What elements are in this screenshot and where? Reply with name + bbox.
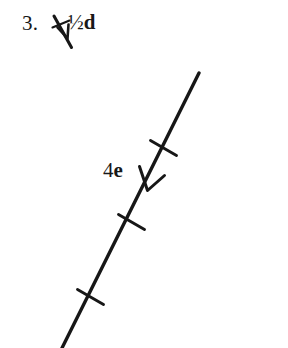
main-vector-coefficient: 4 bbox=[103, 158, 114, 182]
reference-vector-symbol: d bbox=[84, 10, 96, 34]
reference-vector-coefficient: ½ bbox=[68, 10, 84, 34]
main-vector-symbol: e bbox=[114, 158, 123, 182]
reference-vector-label: ½d bbox=[68, 12, 96, 33]
vector-diagram-figure: 3. ½d 4e bbox=[0, 0, 288, 348]
main-vector-group bbox=[62, 73, 199, 348]
diagram-canvas bbox=[0, 0, 288, 348]
item-number: 3. bbox=[22, 13, 38, 34]
main-vector-line bbox=[62, 73, 199, 348]
main-vector-label: 4e bbox=[103, 160, 123, 181]
